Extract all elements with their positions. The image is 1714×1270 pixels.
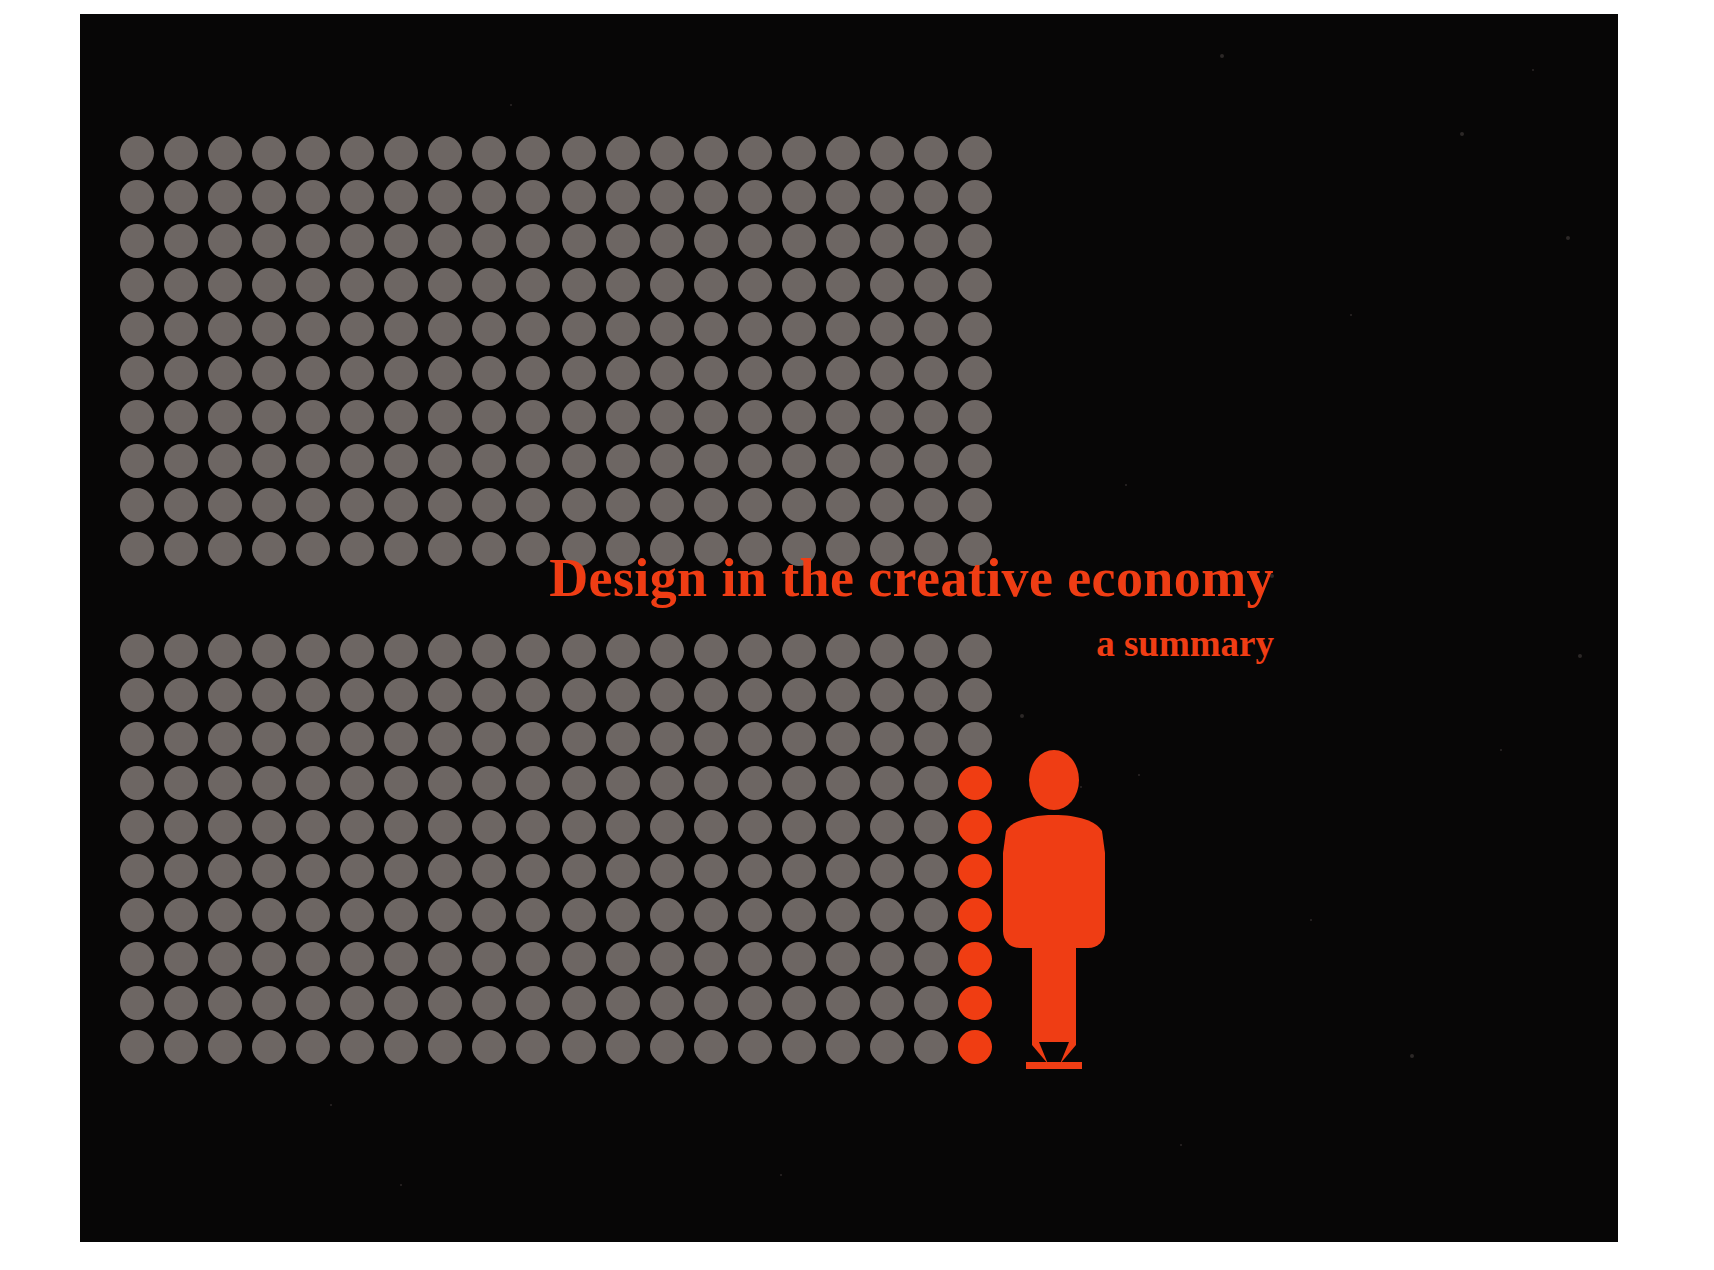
dot-cell bbox=[733, 307, 777, 351]
dot-cell bbox=[159, 1025, 203, 1069]
dot-cell bbox=[601, 175, 645, 219]
dot-cell bbox=[115, 219, 159, 263]
dot bbox=[694, 180, 728, 214]
dot-cell bbox=[159, 131, 203, 175]
dot bbox=[296, 444, 330, 478]
person-head-icon bbox=[1029, 750, 1079, 810]
dot-cell bbox=[335, 893, 379, 937]
dot-cell bbox=[379, 761, 423, 805]
dot-cell bbox=[335, 219, 379, 263]
dot bbox=[738, 810, 772, 844]
dot bbox=[428, 898, 462, 932]
dot-cell bbox=[467, 805, 511, 849]
dot-cell bbox=[645, 263, 689, 307]
dot bbox=[428, 1030, 462, 1064]
poster-panel: Design in the creative economy a summary bbox=[80, 14, 1618, 1242]
dot bbox=[650, 898, 684, 932]
dot-cell bbox=[423, 483, 467, 527]
dot bbox=[428, 854, 462, 888]
dot-cell bbox=[821, 849, 865, 893]
scan-speck bbox=[1350, 314, 1352, 316]
dot bbox=[562, 356, 596, 390]
dot-cell bbox=[689, 981, 733, 1025]
dot bbox=[958, 488, 992, 522]
dot-cell bbox=[159, 395, 203, 439]
dot-cell bbox=[909, 673, 953, 717]
dot bbox=[516, 986, 550, 1020]
dot-cell bbox=[821, 439, 865, 483]
dot-cell bbox=[467, 483, 511, 527]
dot bbox=[782, 180, 816, 214]
dot bbox=[428, 268, 462, 302]
dot bbox=[826, 180, 860, 214]
dot bbox=[120, 986, 154, 1020]
dot-grid-bottom-right bbox=[557, 629, 997, 1069]
dot-cell bbox=[379, 893, 423, 937]
dot-cell bbox=[777, 395, 821, 439]
dot-cell bbox=[601, 849, 645, 893]
dot-cell bbox=[291, 483, 335, 527]
dot bbox=[562, 444, 596, 478]
dot bbox=[208, 180, 242, 214]
dot bbox=[782, 942, 816, 976]
dot-cell bbox=[733, 761, 777, 805]
dot bbox=[738, 898, 772, 932]
dot-cell bbox=[423, 439, 467, 483]
dot-cell bbox=[291, 263, 335, 307]
dot bbox=[516, 400, 550, 434]
dot bbox=[296, 678, 330, 712]
dot bbox=[384, 356, 418, 390]
dot-cell bbox=[909, 175, 953, 219]
dot bbox=[562, 722, 596, 756]
dot bbox=[296, 1030, 330, 1064]
dot-cell bbox=[247, 219, 291, 263]
dot bbox=[870, 224, 904, 258]
dot bbox=[428, 180, 462, 214]
dot bbox=[870, 810, 904, 844]
dot bbox=[208, 136, 242, 170]
dot-cell bbox=[247, 717, 291, 761]
dot-cell bbox=[335, 1025, 379, 1069]
dot bbox=[120, 224, 154, 258]
dot bbox=[694, 986, 728, 1020]
dot-cell bbox=[557, 1025, 601, 1069]
dot-cell bbox=[291, 175, 335, 219]
dot bbox=[384, 224, 418, 258]
dot-cell bbox=[423, 937, 467, 981]
dot bbox=[208, 722, 242, 756]
dot bbox=[870, 136, 904, 170]
dot-cell bbox=[291, 351, 335, 395]
dot-cell bbox=[777, 219, 821, 263]
dot bbox=[694, 722, 728, 756]
dot-cell bbox=[733, 717, 777, 761]
dot bbox=[428, 224, 462, 258]
dot bbox=[516, 722, 550, 756]
dot bbox=[384, 766, 418, 800]
dot-cell bbox=[379, 439, 423, 483]
dot-cell bbox=[423, 175, 467, 219]
dot bbox=[296, 312, 330, 346]
dot bbox=[694, 488, 728, 522]
dot-cell bbox=[733, 351, 777, 395]
dot bbox=[958, 136, 992, 170]
dot-cell bbox=[777, 483, 821, 527]
dot-cell bbox=[159, 673, 203, 717]
dot-cell bbox=[777, 263, 821, 307]
dot bbox=[782, 312, 816, 346]
dot-cell bbox=[865, 937, 909, 981]
dot bbox=[164, 986, 198, 1020]
dot-cell bbox=[777, 175, 821, 219]
dot bbox=[562, 986, 596, 1020]
dot-cell bbox=[379, 1025, 423, 1069]
dot-cell bbox=[821, 761, 865, 805]
dot bbox=[562, 312, 596, 346]
dot bbox=[516, 180, 550, 214]
dot bbox=[516, 268, 550, 302]
dot-cell bbox=[953, 483, 997, 527]
dot bbox=[738, 224, 772, 258]
dot bbox=[164, 312, 198, 346]
dot-cell bbox=[379, 175, 423, 219]
dot-cell bbox=[557, 219, 601, 263]
scan-speck bbox=[1220, 54, 1224, 58]
dot bbox=[296, 722, 330, 756]
